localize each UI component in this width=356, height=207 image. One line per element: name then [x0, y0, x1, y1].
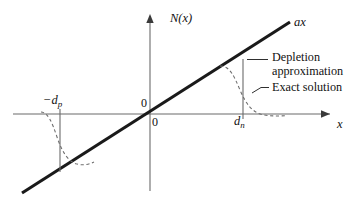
x-axis-arrowhead	[321, 110, 330, 117]
origin-label-y-axis: 0	[141, 97, 147, 110]
annotation-depletion-approximation: Depletion approximation	[272, 51, 356, 78]
tick-label-dn-subscript: n	[240, 120, 245, 130]
tick-label-minus-dp: −dp	[43, 93, 62, 109]
x-axis-label: x	[337, 117, 343, 131]
origin-label-x-axis: 0	[152, 116, 158, 129]
tick-label-minus-dp-base: −d	[43, 93, 58, 107]
y-axis-arrowhead	[146, 14, 153, 23]
tick-label-minus-dp-subscript: p	[58, 99, 63, 109]
exact-solution-leader-line	[252, 88, 269, 94]
figure-container: N(x) ax x 0 0 −dp dn Depletion approxima…	[0, 0, 356, 207]
exact-curve-p-side	[41, 112, 94, 165]
y-axis-label: N(x)	[170, 11, 192, 25]
tick-label-dn: dn	[234, 114, 245, 130]
annotation-exact-solution: Exact solution	[272, 81, 342, 95]
linear-line-label: ax	[294, 15, 306, 29]
